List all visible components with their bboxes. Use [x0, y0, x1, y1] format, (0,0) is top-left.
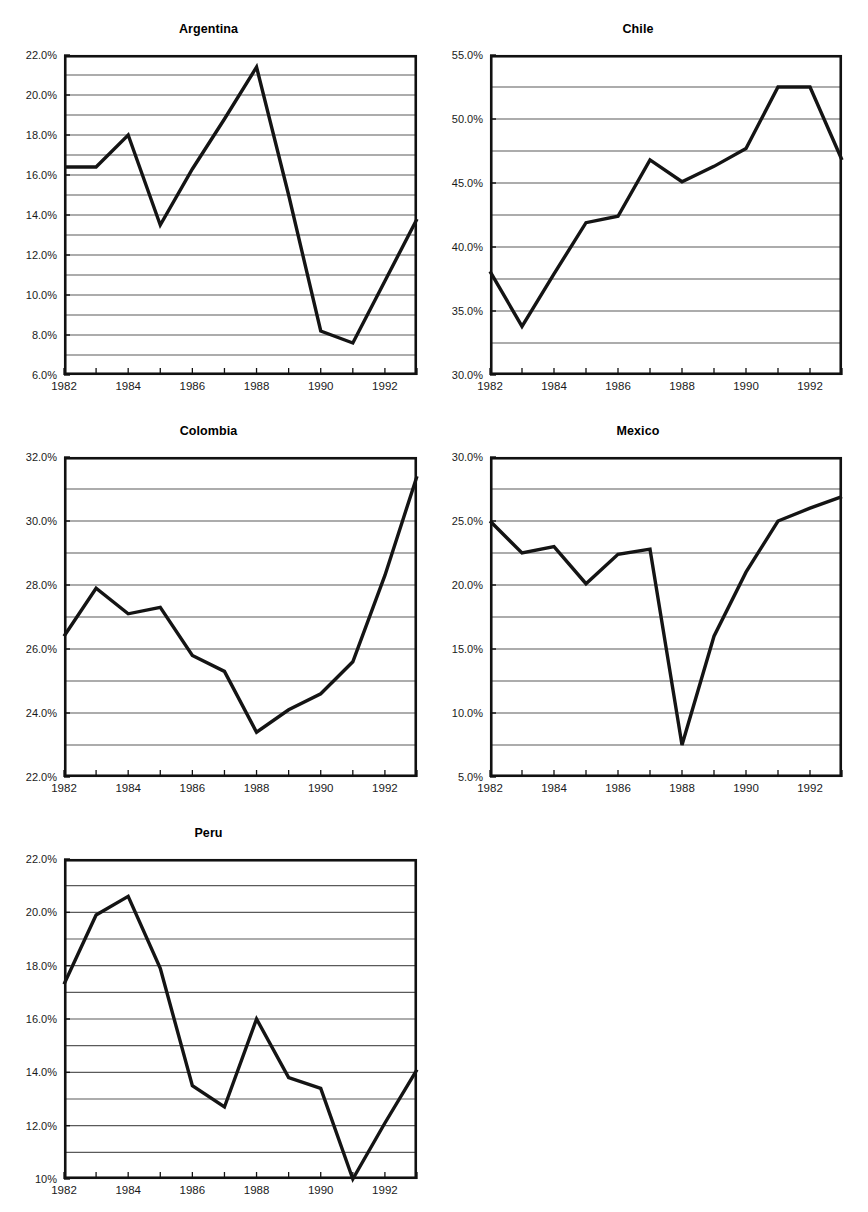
x-tick-label: 1986 — [605, 782, 631, 794]
y-tick-label: 30.0% — [434, 451, 483, 463]
chart-title-chile: Chile — [434, 22, 842, 36]
x-tick-label: 1992 — [372, 782, 398, 794]
page-title — [0, 0, 868, 7]
plot-svg-chile — [490, 55, 842, 375]
chart-title-colombia: Colombia — [0, 424, 417, 438]
gridlines — [64, 75, 417, 355]
x-tick-label: 1986 — [180, 1184, 206, 1196]
plot-area-peru — [64, 859, 417, 1179]
x-tick-label: 1982 — [477, 380, 503, 392]
y-tick-label: 20.0% — [434, 579, 483, 591]
x-tick-label: 1986 — [180, 782, 206, 794]
chart-title-peru: Peru — [0, 826, 417, 840]
gridlines — [64, 886, 417, 1153]
x-tick-label: 1990 — [733, 380, 759, 392]
plot-svg-mexico — [490, 457, 842, 777]
x-tick-label: 1986 — [180, 380, 206, 392]
y-tick-label: 18.0% — [0, 129, 57, 141]
y-tick-label: 12.0% — [0, 249, 57, 261]
x-tick-label: 1988 — [244, 782, 270, 794]
y-tick-label: 10% — [0, 1173, 57, 1185]
y-tick-label: 26.0% — [0, 643, 57, 655]
y-tick-label: 16.0% — [0, 169, 57, 181]
y-tick-label: 20.0% — [0, 906, 57, 918]
x-tick-label: 1982 — [477, 782, 503, 794]
x-tick-label: 1988 — [669, 380, 695, 392]
x-tick-label: 1990 — [733, 782, 759, 794]
y-tick-label: 32.0% — [0, 451, 57, 463]
data-line-argentina — [64, 67, 417, 343]
data-line-chile — [490, 87, 842, 326]
x-tick-label: 1992 — [372, 1184, 398, 1196]
y-tick-label: 30.0% — [0, 515, 57, 527]
x-tick-label: 1984 — [115, 782, 141, 794]
y-tick-label: 35.0% — [434, 305, 483, 317]
x-tick-label: 1988 — [244, 380, 270, 392]
plot-area-argentina — [64, 55, 417, 375]
chart-panel-argentina: Argentina6.0%8.0%10.0%12.0%14.0%16.0%18.… — [0, 22, 435, 405]
y-tick-label: 18.0% — [0, 960, 57, 972]
y-tick-label: 6.0% — [0, 369, 57, 381]
x-tick-label: 1990 — [308, 1184, 334, 1196]
chart-panel-colombia: Colombia22.0%24.0%26.0%28.0%30.0%32.0%19… — [0, 424, 435, 807]
y-tick-label: 40.0% — [434, 241, 483, 253]
y-tick-label: 30.0% — [434, 369, 483, 381]
y-tick-label: 25.0% — [434, 515, 483, 527]
y-tick-label: 45.0% — [434, 177, 483, 189]
chart-title-mexico: Mexico — [434, 424, 842, 438]
y-tick-label: 22.0% — [0, 49, 57, 61]
y-tick-label: 10.0% — [0, 289, 57, 301]
data-line-mexico — [490, 497, 842, 745]
plot-area-colombia — [64, 457, 417, 777]
x-tick-label: 1992 — [797, 380, 823, 392]
plot-area-mexico — [490, 457, 842, 777]
x-tick-label: 1984 — [115, 1184, 141, 1196]
y-tick-label: 24.0% — [0, 707, 57, 719]
data-line-colombia — [64, 476, 417, 732]
y-tick-label: 14.0% — [0, 1066, 57, 1078]
x-tick-label: 1988 — [244, 1184, 270, 1196]
y-tick-label: 16.0% — [0, 1013, 57, 1025]
x-tick-label: 1982 — [51, 380, 77, 392]
x-tick-label: 1990 — [308, 782, 334, 794]
x-tick-label: 1986 — [605, 380, 631, 392]
x-tick-label: 1984 — [115, 380, 141, 392]
y-tick-label: 55.0% — [434, 49, 483, 61]
gridlines — [490, 87, 842, 343]
x-tick-label: 1992 — [797, 782, 823, 794]
y-tick-label: 8.0% — [0, 329, 57, 341]
gridlines — [64, 489, 417, 745]
x-tick-label: 1982 — [51, 1184, 77, 1196]
x-tick-label: 1990 — [308, 380, 334, 392]
y-tick-label: 22.0% — [0, 853, 57, 865]
y-tick-label: 14.0% — [0, 209, 57, 221]
plot-area-chile — [490, 55, 842, 375]
plot-svg-peru — [64, 859, 417, 1179]
y-tick-label: 50.0% — [434, 113, 483, 125]
y-tick-label: 5.0% — [434, 771, 483, 783]
chart-panel-mexico: Mexico5.0%10.0%15.0%20.0%25.0%30.0%19821… — [434, 424, 860, 807]
y-tick-label: 22.0% — [0, 771, 57, 783]
x-tick-label: 1992 — [372, 380, 398, 392]
y-tick-label: 15.0% — [434, 643, 483, 655]
gridlines — [490, 489, 842, 745]
x-tick-label: 1982 — [51, 782, 77, 794]
y-tick-label: 28.0% — [0, 579, 57, 591]
y-tick-label: 12.0% — [0, 1120, 57, 1132]
x-tick-label: 1984 — [541, 380, 567, 392]
chart-title-argentina: Argentina — [0, 22, 417, 36]
x-tick-label: 1988 — [669, 782, 695, 794]
plot-svg-argentina — [64, 55, 417, 375]
y-tick-label: 20.0% — [0, 89, 57, 101]
chart-panel-chile: Chile30.0%35.0%40.0%45.0%50.0%55.0%19821… — [434, 22, 860, 405]
x-tick-label: 1984 — [541, 782, 567, 794]
plot-svg-colombia — [64, 457, 417, 777]
y-tick-label: 10.0% — [434, 707, 483, 719]
chart-panel-peru: Peru10%12.0%14.0%16.0%18.0%20.0%22.0%198… — [0, 826, 435, 1209]
